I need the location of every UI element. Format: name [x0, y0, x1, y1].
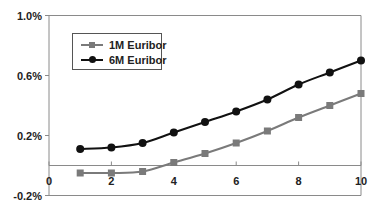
y-tick-label: -0.2% — [13, 190, 42, 202]
circle-marker-icon — [201, 118, 209, 126]
circle-marker-icon — [232, 108, 240, 116]
square-marker-icon — [358, 90, 365, 97]
x-tick-label: 0 — [46, 175, 52, 187]
circle-marker-icon — [76, 145, 84, 153]
circle-marker-icon — [170, 129, 178, 137]
square-marker-icon — [170, 159, 177, 166]
legend-item-1m-euribor: 1M Euribor — [81, 38, 166, 52]
circle-marker-icon — [81, 55, 103, 65]
y-axis: 1.0%0.6%0.2%-0.2% — [13, 10, 49, 202]
square-marker-icon — [264, 128, 271, 135]
series-group — [76, 57, 365, 177]
legend-label: 1M Euribor — [109, 39, 166, 51]
x-tick-label: 10 — [355, 175, 367, 187]
x-tick-label: 8 — [296, 175, 302, 187]
square-marker-icon — [233, 140, 240, 147]
series-6m-euribor — [76, 57, 365, 154]
y-tick-label: 0.6% — [17, 70, 42, 82]
square-marker-icon — [77, 170, 84, 177]
square-marker-icon — [326, 102, 333, 109]
legend: 1M Euribor 6M Euribor — [72, 33, 162, 70]
circle-marker-icon — [295, 81, 303, 89]
square-marker-icon — [108, 170, 115, 177]
circle-marker-icon — [357, 57, 365, 65]
series-1m-euribor — [77, 90, 365, 177]
square-marker-icon — [139, 168, 146, 175]
square-marker-icon — [295, 114, 302, 121]
circle-marker-icon — [139, 139, 147, 147]
y-tick-label: 0.2% — [17, 130, 42, 142]
line-chart: 1.0%0.6%0.2%-0.2% 0246810 — [0, 0, 378, 210]
square-marker-icon — [81, 40, 103, 50]
circle-marker-icon — [263, 96, 271, 104]
circle-marker-icon — [326, 69, 334, 77]
x-tick-label: 4 — [171, 175, 178, 187]
square-marker-icon — [202, 150, 209, 157]
legend-item-6m-euribor: 6M Euribor — [81, 53, 166, 67]
legend-label: 6M Euribor — [109, 54, 166, 66]
y-tick-label: 1.0% — [17, 10, 42, 22]
x-tick-label: 6 — [233, 175, 239, 187]
circle-marker-icon — [107, 144, 115, 152]
